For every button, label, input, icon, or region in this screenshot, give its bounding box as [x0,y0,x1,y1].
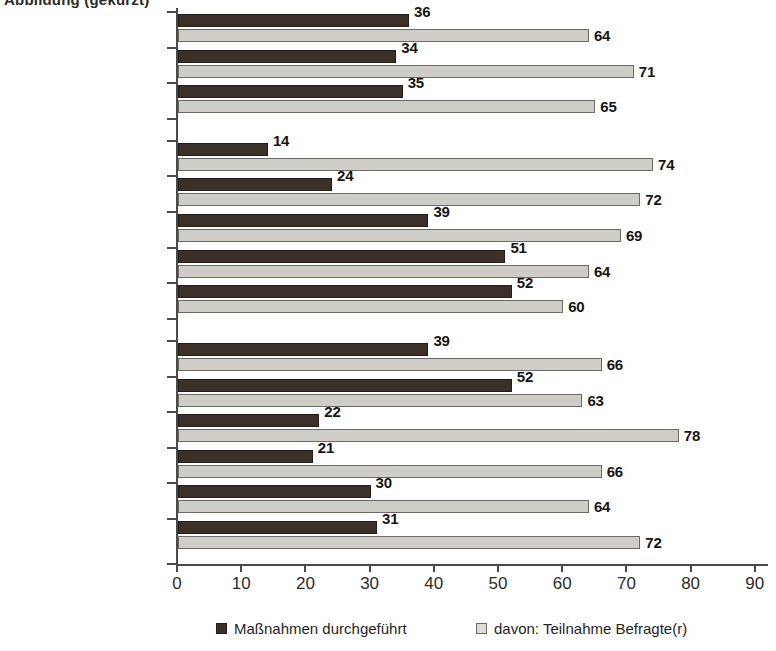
y-axis-tick [167,282,176,284]
bar-teilnahme [178,158,653,171]
legend-item-massnahmen: Maßnahmen durchgeführt [216,620,407,637]
bar-value-massnahmen: 21 [318,439,334,456]
bar-massnahmen [178,178,332,191]
bar-value-massnahmen: 31 [382,510,398,527]
bar-value-teilnahme: 64 [594,263,610,280]
bar-value-teilnahme: 69 [626,227,642,244]
x-axis-tick-label: 0 [172,574,181,594]
bar-value-teilnahme: 71 [639,63,655,80]
x-axis-tick [176,564,178,572]
bar-value-teilnahme: 78 [684,427,700,444]
y-axis-tick [167,318,176,320]
x-axis-tick-label: 50 [489,574,508,594]
plot-area: Alte Bundesländer3664Neue Bundesländer34… [176,8,776,564]
y-axis-tick [167,47,176,49]
x-axis-tick [625,564,627,572]
bar-massnahmen [178,143,268,156]
y-axis-tick [167,140,176,142]
y-axis-tick [167,411,176,413]
bar-value-massnahmen: 35 [408,74,424,91]
bar-value-teilnahme: 64 [594,498,610,515]
bar-value-teilnahme: 72 [645,191,661,208]
y-axis-tick [167,340,176,342]
x-axis-tick [304,564,306,572]
bar-chart: Abbildung (gekürzt) Alte Bundesländer366… [0,0,776,651]
y-axis-tick [167,563,176,565]
bar-massnahmen [178,14,409,27]
bar-massnahmen [178,214,428,227]
x-axis-tick [369,564,371,572]
y-axis-tick [167,211,176,213]
bar-value-massnahmen: 39 [433,332,449,349]
x-axis-tick [433,564,435,572]
bar-value-teilnahme: 66 [607,356,623,373]
x-axis-tick-label: 40 [424,574,443,594]
bar-value-massnahmen: 34 [401,39,417,56]
bar-massnahmen [178,250,505,263]
bar-value-massnahmen: 51 [510,239,526,256]
bar-value-massnahmen: 24 [337,167,353,184]
x-axis-line [176,564,768,566]
bar-value-teilnahme: 63 [587,392,603,409]
bar-value-massnahmen: 52 [517,274,533,291]
bar-teilnahme [178,193,640,206]
x-axis-tick-label: 60 [553,574,572,594]
bar-massnahmen [178,379,512,392]
bar-teilnahme [178,29,589,42]
x-axis-tick [561,564,563,572]
bar-value-massnahmen: 30 [376,474,392,491]
bar-teilnahme [178,100,595,113]
x-axis-tick [240,564,242,572]
bar-value-massnahmen: 52 [517,368,533,385]
legend-label-teilnahme: davon: Teilnahme Befragte(r) [494,620,687,637]
bar-massnahmen [178,414,319,427]
x-axis-tick [754,564,756,572]
legend-item-teilnahme: davon: Teilnahme Befragte(r) [476,620,687,637]
bar-value-teilnahme: 66 [607,463,623,480]
bar-teilnahme [178,536,640,549]
y-axis-tick [167,11,176,13]
y-axis-tick [167,118,176,120]
bar-teilnahme [178,394,582,407]
bar-massnahmen [178,50,396,63]
x-axis-tick-label: 20 [296,574,315,594]
y-axis-tick [167,175,176,177]
y-axis-tick [167,518,176,520]
bar-teilnahme [178,429,679,442]
bar-massnahmen [178,521,377,534]
legend-swatch-light-icon [476,623,487,634]
bar-teilnahme [178,229,621,242]
bar-value-teilnahme: 74 [658,156,674,173]
chart-legend: Maßnahmen durchgeführt davon: Teilnahme … [0,620,776,648]
bar-teilnahme [178,300,563,313]
bar-teilnahme [178,65,634,78]
bar-value-massnahmen: 14 [273,132,289,149]
bar-massnahmen [178,343,428,356]
legend-label-massnahmen: Maßnahmen durchgeführt [234,620,407,637]
bar-value-massnahmen: 39 [433,203,449,220]
x-axis-tick-label: 90 [745,574,764,594]
bar-teilnahme [178,358,602,371]
bar-value-massnahmen: 22 [324,403,340,420]
bar-massnahmen [178,85,403,98]
bar-massnahmen [178,485,371,498]
bar-value-massnahmen: 36 [414,3,430,20]
bar-massnahmen [178,285,512,298]
y-axis-tick [167,376,176,378]
x-axis-tick-label: 70 [617,574,636,594]
x-axis-tick-label: 80 [681,574,700,594]
bar-value-teilnahme: 64 [594,27,610,44]
x-axis-tick-label: 10 [232,574,251,594]
legend-swatch-dark-icon [216,623,227,634]
y-axis-tick [167,247,176,249]
bar-value-teilnahme: 72 [645,534,661,551]
bar-value-teilnahme: 60 [568,298,584,315]
y-axis-tick [167,482,176,484]
x-axis-tick-label: 30 [360,574,379,594]
bar-value-teilnahme: 65 [600,98,616,115]
y-axis-tick [167,447,176,449]
bar-massnahmen [178,450,313,463]
y-axis-tick [167,82,176,84]
chart-title-fragment: Abbildung (gekürzt) [4,0,149,8]
x-axis-tick [690,564,692,572]
